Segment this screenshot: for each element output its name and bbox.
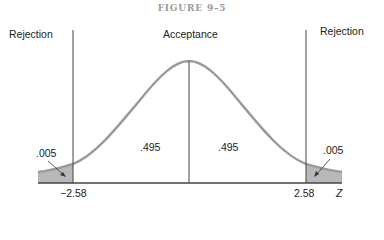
right-tail-shade <box>306 164 342 183</box>
right-rejection-label: Rejection <box>320 25 364 37</box>
left-tail-area-label: .005 <box>36 147 56 159</box>
right-tail-area-label: .005 <box>323 144 343 156</box>
acceptance-label: Acceptance <box>163 28 218 40</box>
z-axis-label: Z <box>336 187 342 199</box>
left-tail-shade <box>38 164 73 183</box>
normal-curve <box>38 61 342 172</box>
left-body-area-label: .495 <box>140 141 160 153</box>
right-critical-tick-label: 2.58 <box>294 187 314 199</box>
left-rejection-label: Rejection <box>9 28 53 40</box>
right-body-area-label: .495 <box>218 141 238 153</box>
left-critical-tick-label: −2.58 <box>60 187 87 199</box>
